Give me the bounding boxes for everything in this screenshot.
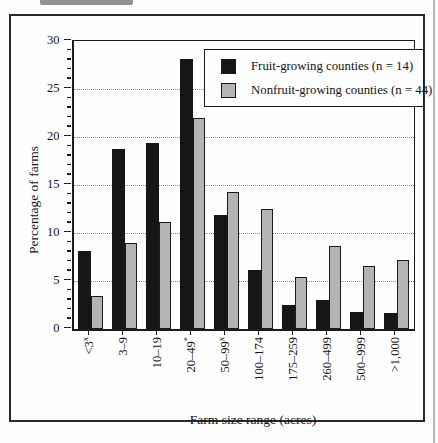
- x-tick-label-8: 500–999: [354, 337, 368, 397]
- y-minor-tick: [67, 241, 71, 242]
- y-tick-20: [64, 135, 71, 136]
- y-tick-label-15: 15: [32, 177, 60, 191]
- x-label-superscript: x: [79, 337, 89, 341]
- y-minor-tick: [67, 68, 71, 69]
- x-label-superscript: *: [181, 337, 191, 341]
- y-tick-label-0: 0: [32, 321, 60, 335]
- y-axis-title: Percentage of farms: [26, 56, 40, 344]
- bar-fruit-2: [146, 143, 159, 328]
- x-tick-7: [326, 330, 327, 335]
- bar-fruit-1: [112, 149, 125, 329]
- y-minor-tick: [67, 269, 71, 270]
- y-tick-10: [64, 231, 71, 232]
- bar-nonfruit-7: [329, 246, 342, 329]
- y-minor-tick: [67, 154, 71, 155]
- legend-label-nonfruit: Nonfruit-growing counties (n = 44): [251, 83, 432, 98]
- y-minor-tick: [67, 125, 71, 126]
- scan-artifact: [40, 0, 133, 5]
- x-tick-label-5: 100–174: [252, 337, 266, 397]
- bar-fruit-5: [248, 270, 261, 329]
- x-tick-label-1: 3–9: [116, 337, 130, 397]
- x-tick-8: [360, 330, 361, 335]
- x-tick-5: [258, 330, 259, 335]
- y-minor-tick: [67, 58, 71, 59]
- bar-nonfruit-6: [295, 277, 308, 329]
- bar-fruit-8: [350, 312, 363, 328]
- y-minor-tick: [67, 250, 71, 251]
- bar-fruit-3: [180, 59, 193, 329]
- x-tick-label-4: 50–99x: [218, 337, 232, 397]
- x-tick-9: [394, 330, 395, 335]
- y-minor-tick: [67, 260, 71, 261]
- y-minor-tick: [67, 193, 71, 194]
- y-minor-tick: [67, 298, 71, 299]
- x-axis-title: Farm size range (acres): [103, 412, 403, 428]
- x-tick-label-6: 175–259: [286, 337, 300, 397]
- y-tick-label-30: 30: [32, 33, 60, 47]
- y-tick-0: [64, 327, 71, 328]
- bar-nonfruit-4: [227, 192, 240, 328]
- y-tick-label-10: 10: [32, 225, 60, 239]
- y-minor-tick: [67, 49, 71, 50]
- bar-nonfruit-1: [125, 243, 138, 328]
- x-tick-2: [156, 330, 157, 335]
- x-tick-4: [224, 330, 225, 335]
- bar-nonfruit-8: [363, 266, 376, 328]
- y-minor-tick: [67, 317, 71, 318]
- y-minor-tick: [67, 116, 71, 117]
- y-minor-tick: [67, 145, 71, 146]
- x-tick-0: [88, 330, 89, 335]
- y-tick-15: [64, 183, 71, 184]
- bar-nonfruit-2: [159, 222, 172, 329]
- x-tick-label-3: 20–49*: [184, 337, 198, 397]
- x-tick-6: [292, 330, 293, 335]
- y-minor-tick: [67, 308, 71, 309]
- y-minor-tick: [67, 289, 71, 290]
- x-tick-label-2: 10–19: [150, 337, 164, 397]
- x-tick-label-9: >1,000: [388, 337, 402, 397]
- x-tick-label-0: <3x: [82, 337, 96, 397]
- x-tick-label-7: 260–499: [320, 337, 334, 397]
- bar-fruit-7: [316, 300, 329, 329]
- y-tick-30: [64, 39, 71, 40]
- bar-nonfruit-5: [261, 209, 274, 328]
- x-tick-1: [122, 330, 123, 335]
- bar-nonfruit-9: [397, 260, 410, 328]
- figure: Percentage of farms 051015202530<3x3–910…: [0, 0, 438, 443]
- legend-swatch-fruit-icon: [221, 59, 236, 74]
- y-tick-5: [64, 279, 71, 280]
- x-tick-3: [190, 330, 191, 335]
- y-tick-label-5: 5: [32, 273, 60, 287]
- bar-fruit-6: [282, 305, 295, 329]
- legend-item-fruit: Fruit-growing counties (n = 14): [205, 59, 423, 74]
- y-minor-tick: [67, 221, 71, 222]
- bar-fruit-9: [384, 313, 397, 328]
- y-minor-tick: [67, 164, 71, 165]
- legend: Fruit-growing counties (n = 14) Nonfruit…: [204, 49, 424, 107]
- y-minor-tick: [67, 202, 71, 203]
- legend-label-fruit: Fruit-growing counties (n = 14): [251, 59, 413, 74]
- gridline-15: [74, 185, 414, 186]
- legend-item-nonfruit: Nonfruit-growing counties (n = 44): [205, 83, 423, 98]
- y-minor-tick: [67, 106, 71, 107]
- x-label-superscript: x: [215, 337, 225, 341]
- y-minor-tick: [67, 77, 71, 78]
- y-minor-tick: [67, 212, 71, 213]
- y-tick-25: [64, 87, 71, 88]
- y-minor-tick: [67, 97, 71, 98]
- bar-nonfruit-0: [91, 296, 104, 329]
- legend-swatch-nonfruit-icon: [221, 83, 236, 98]
- bar-fruit-0: [78, 251, 91, 329]
- gridline-20: [74, 137, 414, 138]
- scan-artifact-edge: [433, 0, 435, 443]
- bar-nonfruit-3: [193, 118, 206, 328]
- figure-frame: Percentage of farms 051015202530<3x3–910…: [9, 14, 425, 422]
- y-tick-label-20: 20: [32, 129, 60, 143]
- y-tick-label-25: 25: [32, 81, 60, 95]
- gridline-10: [74, 233, 414, 234]
- y-minor-tick: [67, 173, 71, 174]
- bar-fruit-4: [214, 215, 227, 328]
